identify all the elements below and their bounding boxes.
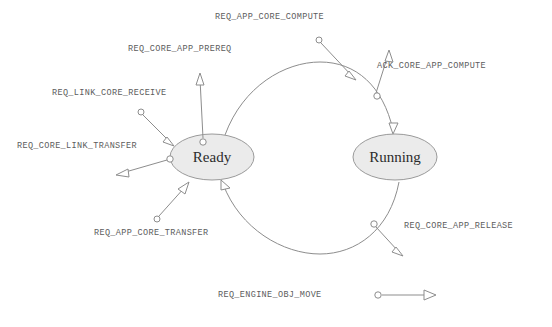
req-core-link-transfer-port-icon (167, 156, 173, 162)
req-core-app-release-line (376, 227, 398, 251)
req-app-core-compute-line (321, 43, 352, 76)
label-req-link-core-receive: REQ_LINK_CORE_RECEIVE (52, 89, 166, 98)
signal-req-app-core-transfer[interactable] (154, 182, 189, 222)
label-legend-req-engine-obj-move: REQ_ENGINE_OBJ_MOVE (218, 291, 322, 300)
arc-top-arrowhead (389, 123, 398, 134)
legend-symbol (375, 290, 436, 300)
signal-ack-core-app-compute[interactable] (374, 50, 393, 99)
legend-port-icon (375, 292, 381, 298)
label-req-app-core-transfer: REQ_APP_CORE_TRANSFER (94, 229, 208, 238)
label-ack-core-app-compute: ACK_CORE_APP_COMPUTE (377, 62, 486, 71)
arc-bottom-path (223, 182, 399, 254)
diagram-canvas: Ready Running (0, 0, 552, 327)
req-app-core-compute-port-icon (316, 37, 322, 43)
req-link-core-receive-arrowhead (163, 137, 174, 146)
req-app-core-transfer-arrowhead (178, 182, 189, 194)
label-req-core-app-release: REQ_CORE_APP_RELEASE (404, 222, 513, 231)
label-req-core-link-transfer: REQ_CORE_LINK_TRANSFER (17, 142, 137, 151)
state-node-ready[interactable]: Ready (170, 134, 254, 180)
signal-req-core-link-transfer[interactable] (116, 156, 173, 177)
state-node-running[interactable]: Running (353, 134, 437, 180)
req-core-app-prereq-port-icon (200, 139, 206, 145)
label-req-app-core-compute: REQ_APP_CORE_COMPUTE (215, 13, 324, 22)
ack-core-app-compute-port-icon (374, 93, 380, 99)
req-core-app-prereq-arrowhead (196, 73, 204, 85)
req-app-core-compute-arrowhead (345, 71, 356, 80)
running-label: Running (369, 149, 421, 165)
req-core-app-prereq-line (200, 79, 203, 138)
signal-req-link-core-receive[interactable] (138, 109, 174, 146)
req-core-app-release-arrowhead (392, 247, 403, 256)
signal-req-app-core-compute[interactable] (316, 37, 356, 80)
legend-arrowhead-icon (424, 290, 436, 300)
req-link-core-receive-line (143, 115, 169, 141)
arc-top-path (225, 62, 393, 135)
transition-ready-to-running (225, 62, 398, 135)
label-req-core-app-prereq: REQ_CORE_APP_PREREQ (128, 45, 232, 54)
transition-running-to-ready (221, 180, 399, 254)
arc-bottom-arrowhead (221, 180, 230, 190)
ready-label: Ready (193, 149, 232, 165)
signal-req-core-app-release[interactable] (371, 221, 403, 256)
req-core-link-transfer-arrowhead (116, 169, 129, 177)
state-diagram-svg: Ready Running (0, 0, 552, 327)
req-app-core-transfer-port-icon (154, 216, 160, 222)
req-core-app-release-port-icon (371, 221, 377, 227)
req-link-core-receive-port-icon (138, 109, 144, 115)
